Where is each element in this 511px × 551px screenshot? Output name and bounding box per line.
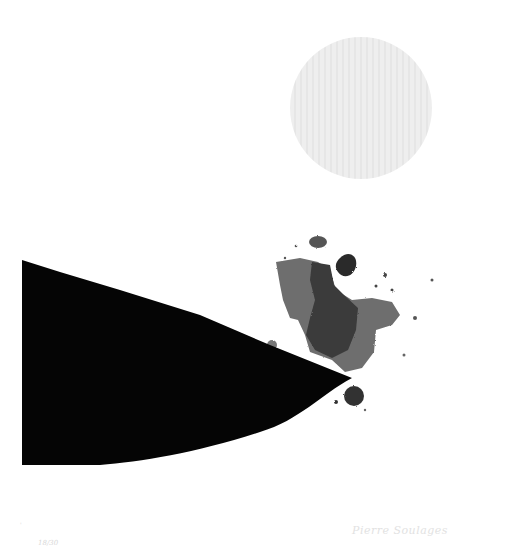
artist-signature: Pierre Soulages bbox=[352, 524, 448, 537]
artwork-canvas bbox=[0, 0, 511, 551]
edition-number: 18/30 bbox=[38, 539, 58, 547]
pale-moon-circle bbox=[290, 37, 432, 179]
margin-mark: ' bbox=[20, 521, 22, 528]
